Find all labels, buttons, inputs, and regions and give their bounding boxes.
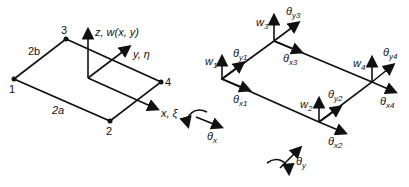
theta-y2-label: θy2 xyxy=(328,89,342,103)
dim-2b-label: 2b xyxy=(28,46,40,57)
theta-y4-label: θy4 xyxy=(383,47,397,61)
plate-element-diagram: 1 2 3 4 2b 2a z, w(x, y) y, η x, ξ w1 θy… xyxy=(0,0,409,187)
w3-label: w3 xyxy=(256,17,268,31)
node-3-label: 3 xyxy=(61,25,67,36)
theta-y3-label: θy3 xyxy=(286,6,300,20)
theta-x-legend-label: θx xyxy=(207,131,217,145)
node-2-label: 2 xyxy=(106,126,112,137)
w1-label: w1 xyxy=(205,56,217,70)
z-axis-label: z, w(x, y) xyxy=(95,27,139,38)
theta-x3-label: θx3 xyxy=(283,53,297,67)
theta-x4-label: θx4 xyxy=(380,96,394,110)
w4-label: w4 xyxy=(353,58,365,72)
dim-2a-label: 2a xyxy=(52,105,64,116)
x-axis-label: x, ξ xyxy=(161,108,178,119)
node-1-label: 1 xyxy=(9,84,15,95)
node-4-label: 4 xyxy=(165,77,171,88)
theta-x2-label: θx2 xyxy=(328,136,342,150)
theta-y-legend-label: θy xyxy=(296,156,306,170)
theta-x1-label: θx1 xyxy=(233,94,247,108)
y-axis-label: y, η xyxy=(133,49,150,60)
theta-y1-label: θy1 xyxy=(233,48,247,62)
w2-label: w2 xyxy=(300,99,312,113)
